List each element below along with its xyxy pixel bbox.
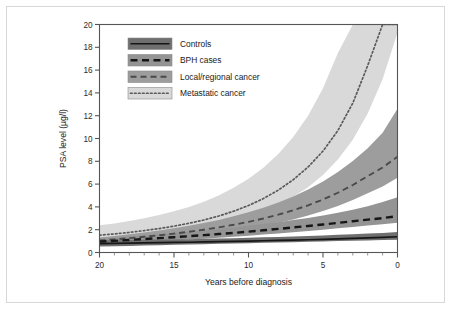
legend-label-controls: Controls [180,39,211,49]
y-tick-label: 6 [88,180,93,189]
psa-level-chart: 0246810121416182020151050PSA level (µg/l… [0,0,453,311]
legend-label-local-regional-cancer: Local/regional cancer [180,72,260,82]
y-tick-label: 18 [83,43,93,52]
y-tick-label: 8 [88,157,93,166]
x-tick-label: 0 [395,261,400,270]
y-tick-label: 14 [83,89,93,98]
y-axis-title: PSA level (µg/l) [58,109,68,168]
x-tick-label: 10 [244,261,254,270]
y-tick-label: 2 [88,226,93,235]
y-tick-label: 10 [83,135,93,144]
legend-label-bph-cases: BPH cases [180,55,221,65]
legend-label-metastatic-cancer: Metastatic cancer [180,88,246,98]
y-tick-label: 0 [88,249,93,258]
x-axis-title: Years before diagnosis [205,277,292,287]
legend: ControlsBPH casesLocal/regional cancerMe… [128,38,260,99]
chart-canvas: 0246810121416182020151050PSA level (µg/l… [0,0,453,311]
x-tick-label: 20 [95,261,105,270]
y-tick-label: 20 [83,21,93,30]
x-tick-label: 5 [321,261,326,270]
y-tick-label: 16 [83,66,93,75]
y-tick-label: 4 [88,203,93,212]
y-tick-label: 12 [83,112,93,121]
x-tick-label: 15 [169,261,179,270]
